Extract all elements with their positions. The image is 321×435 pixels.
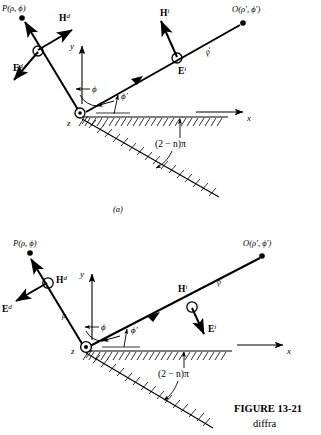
panel-b-diffracted-E-label: Ed <box>2 303 12 314</box>
panel-a-diffraction-angle-label: ϕ <box>92 84 97 94</box>
panel-b-source-point-label: O(ρ′, ϕ′) <box>243 238 271 248</box>
panel-b-incident-ray <box>90 258 260 346</box>
panel-a-incident-H-label: Hi <box>160 7 169 18</box>
panel-b-diffracted-E-vector <box>16 283 47 301</box>
panel-b-observation-point-label: P(ρ, ϕ) <box>12 238 37 248</box>
figure-container: x y <box>0 0 321 435</box>
panel-a-x-axis-label: x <box>246 113 251 123</box>
panel-b-incident-ray-marker <box>187 302 197 312</box>
panel-b-diffraction-angle-label: ϕ <box>101 322 106 332</box>
panel-a-diffracted-H-vector <box>38 30 72 50</box>
panel-b-phiprime-arrow <box>124 329 127 347</box>
panel-b-y-axis-label: y <box>79 269 84 279</box>
panel-a-incident-H-vector <box>161 21 177 57</box>
panel-a-y-axis-label: y <box>69 41 74 51</box>
panel-b-diffracted-length-label: ρ <box>61 310 66 320</box>
panel-b-diffracted-H-label: Hd <box>56 274 67 285</box>
panel-b-upper-face-hatching <box>83 351 232 360</box>
panel-a-phi-arc <box>80 95 98 106</box>
panel-a-z-axis-label: z <box>66 118 71 128</box>
panel-a-source-point-label: O(ρ′, ϕ′) <box>232 4 260 14</box>
panel-b: x y <box>2 238 291 428</box>
panel-a-upper-face-hatching <box>79 117 228 126</box>
panel-a-origin-z-marker <box>75 108 85 118</box>
panel-b-diffracted-ray <box>31 259 84 347</box>
panel-a: x y <box>1 3 260 214</box>
panel-b-incident-H-label: Hi <box>178 283 187 294</box>
figure-caption-text: diffra <box>253 418 276 429</box>
panel-b-observation-point-dot <box>27 250 33 256</box>
panel-a-incident-length-label: ρ′ <box>202 45 213 57</box>
panel-b-incidence-angle-label: ϕ′ <box>131 325 139 335</box>
panel-b-wedge-angle-leader-curve <box>164 381 178 400</box>
panel-a-wedge-angle-label: (2 − n)π <box>155 139 186 150</box>
panel-b-origin-z-marker <box>81 342 92 353</box>
panel-a-incident-ray <box>86 25 240 112</box>
panel-b-lower-face-hatching <box>86 350 213 428</box>
panel-a-incident-E-label: Ei <box>178 65 186 76</box>
panel-a-observation-point-dot <box>19 15 25 21</box>
panel-a-observation-point-label: P(ρ, ϕ) <box>1 3 26 13</box>
panel-a-incidence-angle-label: ϕ′ <box>121 91 129 101</box>
wedge-diffraction-figure: x y <box>0 0 321 435</box>
figure-number-label: FIGURE 13-21 <box>234 403 302 414</box>
panel-b-source-point-dot <box>259 253 265 259</box>
panel-a-phiprime-arrow <box>114 95 118 114</box>
panel-a-caption: (a) <box>113 204 123 214</box>
panel-b-x-axis-label: x <box>286 346 291 356</box>
panel-b-incident-E-label: Ei <box>208 323 216 334</box>
panel-a-diffracted-ray <box>25 22 80 113</box>
panel-a-source-point-dot <box>240 20 246 26</box>
panel-a-lower-face-hatching <box>82 116 219 197</box>
panel-b-z-axis-label: z <box>70 346 75 356</box>
panel-b-wedge-angle-label: (2 − n)π <box>158 369 189 380</box>
panel-a-diffracted-H-label: Hd <box>59 12 70 23</box>
